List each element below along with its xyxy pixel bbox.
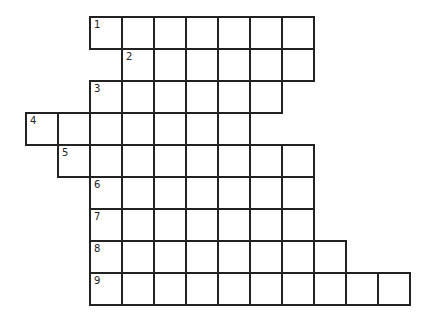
grid-cell[interactable] bbox=[121, 176, 155, 210]
grid-cell[interactable]: 3 bbox=[89, 80, 123, 114]
grid-cell[interactable] bbox=[153, 80, 187, 114]
grid-cell[interactable] bbox=[281, 16, 315, 50]
grid-cell[interactable]: 4 bbox=[25, 112, 59, 146]
grid-cell[interactable] bbox=[121, 272, 155, 306]
grid-cell[interactable]: 2 bbox=[121, 48, 155, 82]
grid-cell[interactable]: 1 bbox=[89, 16, 123, 50]
grid-cell[interactable] bbox=[217, 208, 251, 242]
grid-cell[interactable] bbox=[249, 16, 283, 50]
grid-cell[interactable]: 9 bbox=[89, 272, 123, 306]
clue-number: 4 bbox=[30, 115, 36, 126]
grid-cell[interactable] bbox=[249, 272, 283, 306]
grid-cell[interactable]: 6 bbox=[89, 176, 123, 210]
grid-cell[interactable] bbox=[121, 80, 155, 114]
grid-cell[interactable] bbox=[185, 112, 219, 146]
grid-cell[interactable] bbox=[185, 48, 219, 82]
grid-cell[interactable] bbox=[217, 80, 251, 114]
grid-cell[interactable] bbox=[217, 48, 251, 82]
grid-cell[interactable]: 5 bbox=[57, 144, 91, 178]
clue-number: 5 bbox=[62, 147, 68, 158]
grid-cell[interactable] bbox=[281, 48, 315, 82]
grid-cell[interactable] bbox=[217, 144, 251, 178]
grid-cell[interactable] bbox=[153, 272, 187, 306]
clue-number: 3 bbox=[94, 83, 100, 94]
grid-cell[interactable] bbox=[377, 272, 411, 306]
grid-cell[interactable] bbox=[185, 16, 219, 50]
clue-number: 1 bbox=[94, 19, 100, 30]
grid-cell[interactable] bbox=[217, 176, 251, 210]
grid-cell[interactable] bbox=[57, 112, 91, 146]
grid-cell[interactable] bbox=[153, 240, 187, 274]
grid-cell[interactable] bbox=[185, 80, 219, 114]
grid-cell[interactable] bbox=[153, 176, 187, 210]
grid-cell[interactable] bbox=[281, 272, 315, 306]
grid-cell[interactable] bbox=[185, 176, 219, 210]
grid-cell[interactable] bbox=[249, 144, 283, 178]
grid-cell[interactable] bbox=[217, 272, 251, 306]
grid-cell[interactable] bbox=[153, 144, 187, 178]
grid-cell[interactable] bbox=[217, 112, 251, 146]
grid-cell[interactable] bbox=[249, 80, 283, 114]
grid-cell[interactable] bbox=[153, 48, 187, 82]
grid-cell[interactable] bbox=[249, 48, 283, 82]
grid-cell[interactable] bbox=[89, 112, 123, 146]
clue-number: 9 bbox=[94, 275, 100, 286]
grid-cell[interactable] bbox=[281, 144, 315, 178]
grid-cell[interactable] bbox=[249, 208, 283, 242]
grid-cell[interactable] bbox=[281, 176, 315, 210]
grid-cell[interactable] bbox=[153, 16, 187, 50]
grid-cell[interactable]: 8 bbox=[89, 240, 123, 274]
grid-cell[interactable] bbox=[153, 208, 187, 242]
grid-cell[interactable] bbox=[313, 240, 347, 274]
grid-cell[interactable] bbox=[121, 112, 155, 146]
grid-cell[interactable] bbox=[217, 16, 251, 50]
grid-cell[interactable] bbox=[249, 176, 283, 210]
grid-cell[interactable] bbox=[185, 240, 219, 274]
grid-cell[interactable] bbox=[249, 240, 283, 274]
grid-cell[interactable] bbox=[121, 240, 155, 274]
grid-cell[interactable]: 7 bbox=[89, 208, 123, 242]
grid-cell[interactable] bbox=[281, 208, 315, 242]
grid-cell[interactable] bbox=[345, 272, 379, 306]
clue-number: 7 bbox=[94, 211, 100, 222]
grid-cell[interactable] bbox=[281, 240, 315, 274]
clue-number: 6 bbox=[94, 179, 100, 190]
grid-cell[interactable] bbox=[89, 144, 123, 178]
grid-cell[interactable] bbox=[313, 272, 347, 306]
grid-cell[interactable] bbox=[121, 144, 155, 178]
clue-number: 8 bbox=[94, 243, 100, 254]
grid-cell[interactable] bbox=[185, 208, 219, 242]
grid-cell[interactable] bbox=[121, 16, 155, 50]
grid-cell[interactable] bbox=[185, 144, 219, 178]
clue-number: 2 bbox=[126, 51, 132, 62]
grid-cell[interactable] bbox=[217, 240, 251, 274]
crossword-grid: 123456789 bbox=[0, 0, 433, 318]
grid-cell[interactable] bbox=[185, 272, 219, 306]
grid-cell[interactable] bbox=[153, 112, 187, 146]
grid-cell[interactable] bbox=[121, 208, 155, 242]
